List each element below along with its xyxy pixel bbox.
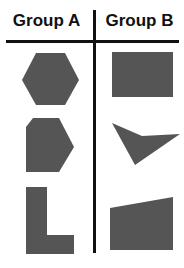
shape-l-shape-group-a bbox=[26, 187, 74, 254]
diagram-root: Group A Group B bbox=[0, 0, 184, 268]
shapes-canvas bbox=[0, 0, 184, 268]
vertical-divider bbox=[93, 10, 96, 253]
shape-hexagon-group-a bbox=[22, 53, 79, 105]
horizontal-divider bbox=[6, 40, 179, 43]
shape-slanted-quadrilateral-group-b bbox=[110, 197, 173, 250]
shape-concave-dart-group-b bbox=[112, 123, 180, 165]
shape-pentagon-cut-corner-group-a bbox=[26, 118, 74, 172]
shape-rectangle-group-b bbox=[112, 52, 173, 97]
